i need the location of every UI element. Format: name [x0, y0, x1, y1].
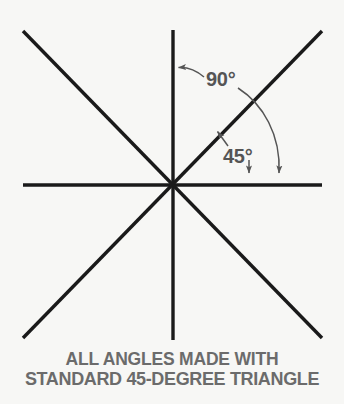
figure-caption: ALL ANGLES MADE WITH STANDARD 45-DEGREE …	[0, 349, 344, 389]
caption-line-2: STANDARD 45-DEGREE TRIANGLE	[0, 369, 344, 389]
caption-line-1: ALL ANGLES MADE WITH	[0, 349, 344, 369]
diagram-canvas: 90° 45°	[0, 0, 344, 404]
angle-90-label: 90°	[206, 68, 236, 90]
angle-45-label: 45°	[223, 145, 253, 167]
angle-diagram-figure: 90° 45° ALL ANGLES MADE WITH STANDARD 45…	[0, 0, 344, 404]
construction-lines	[23, 30, 322, 340]
